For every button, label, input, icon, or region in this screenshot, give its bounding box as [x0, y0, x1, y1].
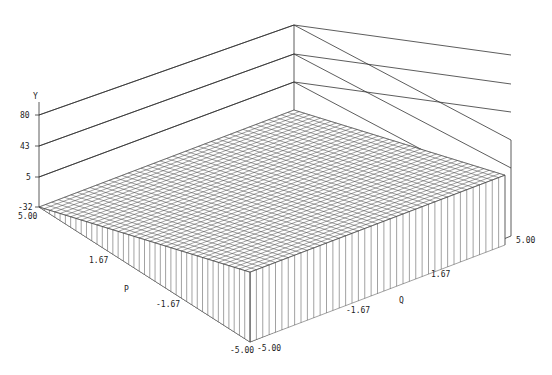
q-tick-neg5: -5.00 — [257, 344, 281, 353]
y-tick-5: 5 — [26, 173, 31, 182]
surface-mesh — [39, 110, 505, 342]
p-tick-neg1-67: -1.67 — [156, 300, 180, 309]
y-tick-43: 43 — [20, 142, 30, 151]
p-tick-5: 5.00 — [18, 212, 37, 221]
q-tick-neg1-67: -1.67 — [346, 306, 370, 315]
y-tick-neg32: -32 — [18, 203, 33, 212]
q-axis-label: Q — [399, 296, 404, 305]
q-tick-1-67: 1.67 — [431, 270, 450, 279]
p-tick-neg5: -5.00 — [230, 346, 254, 355]
y-tick-80: 80 — [20, 111, 30, 120]
q-tick-5: 5.00 — [516, 236, 535, 245]
p-axis-label: P — [124, 285, 129, 294]
y-axis-label: Y — [33, 92, 38, 101]
surface-plot: Y 80 43 5 -32 5.00 1.67 P -1.67 -5.00 -5… — [0, 0, 552, 375]
p-tick-1-67: 1.67 — [89, 256, 108, 265]
